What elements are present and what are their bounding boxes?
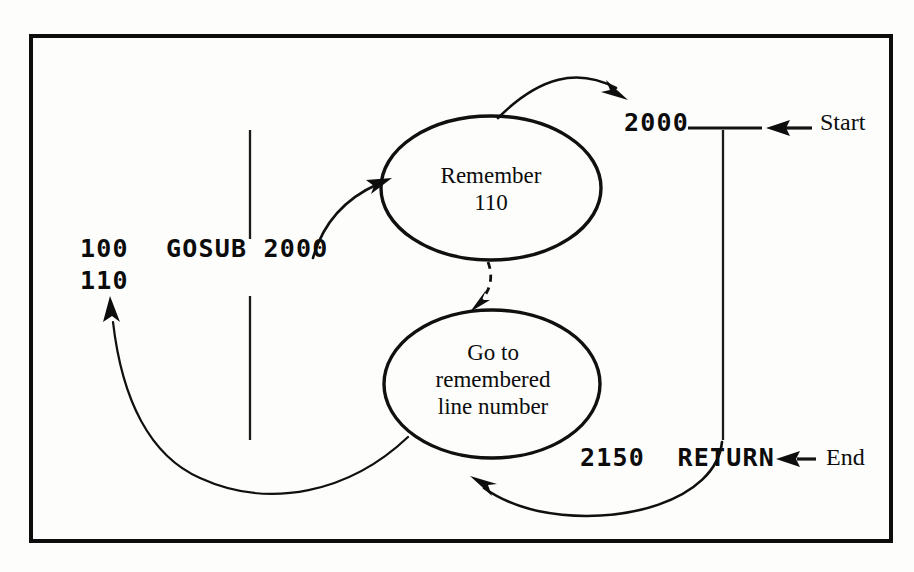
edge-goto-to-110: [113, 322, 408, 494]
start-label: Start: [820, 110, 865, 134]
line-number-100: 100: [80, 236, 129, 261]
edge-goto-to-110-arrow-icon: [103, 296, 120, 322]
node-goto-text: Go to remembered line number: [384, 339, 602, 420]
edge-remember-to-goto: [478, 262, 491, 304]
edge-remember-to-2000: [498, 78, 616, 118]
flowchart-graphic: [0, 0, 914, 572]
statement-gosub-2000: GOSUB 2000: [166, 236, 329, 261]
end-label: End: [826, 445, 865, 469]
line-number-2000: 2000: [624, 110, 689, 135]
line-number-2150: 2150: [580, 443, 645, 472]
statement-return-spacer: [645, 443, 678, 472]
end-arrow-head-icon: [776, 451, 800, 467]
line-number-2150-return: 2150 RETURN: [580, 445, 775, 470]
statement-return: RETURN: [678, 443, 776, 472]
node-remember-text: Remember 110: [382, 162, 600, 216]
figure-canvas: 100 110 GOSUB 2000 2000 Start 2150 RETUR…: [0, 0, 914, 572]
line-number-110: 110: [80, 268, 129, 293]
